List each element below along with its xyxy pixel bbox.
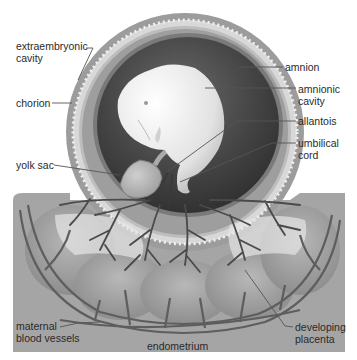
label-line: cord xyxy=(298,149,339,161)
label-line: cavity xyxy=(16,52,88,64)
label-amnionic-cavity: amnionic cavity xyxy=(298,83,340,107)
label-line: developing xyxy=(295,321,346,333)
label-line: chorion xyxy=(16,97,50,109)
label-chorion: chorion xyxy=(16,97,50,109)
diagram-canvas: extraembryonic cavity chorion yolk sac a… xyxy=(0,0,357,360)
label-umbilical-cord: umbilical cord xyxy=(298,137,339,161)
label-extraembryonic-cavity: extraembryonic cavity xyxy=(16,40,88,64)
label-maternal-blood-vessels: maternal blood vessels xyxy=(16,320,80,344)
label-endometrium: endometrium xyxy=(147,340,208,352)
label-line: yolk sac xyxy=(16,159,54,171)
label-line: cavity xyxy=(298,95,340,107)
label-line: amnionic xyxy=(298,83,340,95)
label-line: amnion xyxy=(285,61,319,73)
label-allantois: allantois xyxy=(298,115,337,127)
label-line: umbilical xyxy=(298,137,339,149)
label-line: placenta xyxy=(295,333,346,345)
label-line: endometrium xyxy=(147,340,208,352)
label-yolk-sac: yolk sac xyxy=(16,159,54,171)
label-line: maternal xyxy=(16,320,80,332)
label-line: allantois xyxy=(298,115,337,127)
label-amnion: amnion xyxy=(285,61,319,73)
label-line: blood vessels xyxy=(16,332,80,344)
label-developing-placenta: developing placenta xyxy=(295,321,346,345)
label-line: extraembryonic xyxy=(16,40,88,52)
